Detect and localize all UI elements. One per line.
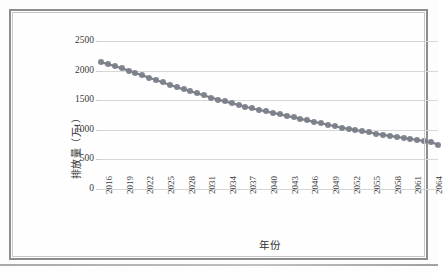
data-point-marker (291, 114, 297, 120)
series-line (101, 41, 438, 189)
figure-border-frame: 排放量（万t） 05001000150020002500 20162019202… (9, 9, 428, 260)
x-tick-label: 2040 (270, 176, 279, 194)
x-tick-label: 2052 (353, 176, 362, 194)
data-point-marker (401, 135, 407, 141)
x-tick-label: 2061 (414, 176, 423, 194)
data-point-marker (304, 117, 310, 123)
data-point-marker (332, 123, 338, 129)
x-tick-label: 2031 (208, 176, 217, 194)
data-point-marker (421, 138, 427, 144)
data-point-marker (139, 72, 145, 78)
data-point-marker (325, 122, 331, 128)
data-point-marker (366, 129, 372, 135)
data-point-marker (346, 126, 352, 132)
x-tick-label: 2022 (146, 176, 155, 194)
data-point-marker (181, 86, 187, 92)
data-point-marker (126, 68, 132, 74)
y-tick-label: 1000 (75, 125, 94, 135)
data-point-marker (146, 75, 152, 81)
data-point-marker (222, 98, 228, 104)
data-point-marker (194, 90, 200, 96)
x-tick-label: 2049 (332, 176, 341, 194)
data-point-marker (373, 131, 379, 137)
data-point-marker (297, 116, 303, 122)
data-point-marker (318, 120, 324, 126)
x-tick-label: 2064 (435, 176, 444, 194)
y-tick-label: 0 (89, 184, 94, 194)
data-point-marker (435, 142, 441, 148)
data-point-marker (242, 104, 248, 110)
data-point-marker (311, 119, 317, 125)
x-tick-label: 2025 (167, 176, 176, 194)
data-point-marker (394, 134, 400, 140)
data-point-marker (98, 59, 104, 65)
data-point-marker (160, 79, 166, 85)
data-point-marker (359, 128, 365, 134)
data-point-marker (249, 105, 255, 111)
data-point-marker (174, 84, 180, 90)
data-point-marker (428, 139, 434, 145)
x-tick-label: 2037 (249, 176, 258, 194)
y-axis-title: 排放量（万t） (68, 112, 83, 178)
y-tick-mark (96, 189, 101, 190)
data-point-marker (414, 137, 420, 143)
data-point-marker (119, 65, 125, 71)
x-tick-label: 2058 (394, 176, 403, 194)
data-point-marker (215, 97, 221, 103)
y-tick-label: 500 (80, 155, 94, 165)
data-point-marker (112, 63, 118, 69)
data-point-marker (380, 132, 386, 138)
data-point-marker (407, 136, 413, 142)
y-tick-label: 2500 (75, 36, 94, 46)
data-point-marker (105, 61, 111, 67)
data-point-marker (153, 77, 159, 83)
plot-area: 05001000150020002500 (101, 41, 438, 189)
y-tick-label: 2000 (75, 66, 94, 76)
y-tick-label: 1500 (75, 95, 94, 105)
x-tick-label: 2034 (229, 176, 238, 194)
data-point-marker (167, 82, 173, 88)
chart-area: 排放量（万t） 05001000150020002500 20162019202… (22, 22, 437, 269)
data-point-marker (277, 111, 283, 117)
data-point-marker (229, 100, 235, 106)
data-point-marker (352, 127, 358, 133)
data-point-marker (284, 113, 290, 119)
data-point-marker (270, 110, 276, 116)
data-point-marker (263, 108, 269, 114)
data-point-marker (236, 102, 242, 108)
data-point-marker (387, 133, 393, 139)
data-point-marker (132, 70, 138, 76)
x-tick-label: 2055 (373, 176, 382, 194)
x-tick-label: 2043 (291, 176, 300, 194)
x-tick-label: 2019 (126, 176, 135, 194)
scan-edge-line (0, 264, 438, 266)
x-tick-label: 2016 (105, 176, 114, 194)
data-point-marker (339, 125, 345, 131)
data-point-marker (256, 107, 262, 113)
x-tick-label: 2046 (311, 176, 320, 194)
data-point-marker (208, 95, 214, 101)
x-axis-title: 年份 (101, 237, 438, 252)
x-tick-label: 2028 (188, 176, 197, 194)
data-point-marker (187, 88, 193, 94)
data-point-marker (201, 92, 207, 98)
